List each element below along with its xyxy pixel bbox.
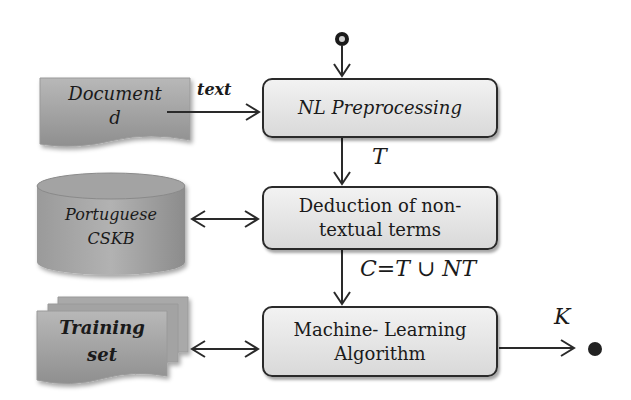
ml-label-line1: Machine- Learning [293,318,466,342]
nl-preprocessing-box: NL Preprocessing [262,78,498,138]
cskb-label-line1: Portuguese [37,204,185,226]
text-edge-label: text [197,80,232,99]
start-arrow [334,46,350,76]
c-arrow [334,250,350,304]
end-node-icon [588,342,602,356]
deduction-label-line2: textual terms [319,218,441,242]
t-edge-label: T [372,144,387,169]
training-label-line1: Training [37,316,167,340]
nl-preprocessing-label: NL Preprocessing [298,96,462,120]
start-node-icon [335,32,349,46]
document-label-line2: d [40,106,190,130]
ml-label-line2: Algorithm [334,342,425,366]
deduction-label-line1: Deduction of non- [299,194,462,218]
deduction-box: Deduction of non- textual terms [262,186,498,250]
training-set-shape [37,297,188,384]
document-label-line1: Document [40,82,190,106]
ml-algorithm-box: Machine- Learning Algorithm [262,306,498,377]
training-bidirectional-arrow [192,341,258,357]
c-edge-label: C=T ∪ NT [360,256,476,281]
k-arrow [499,340,574,356]
t-arrow [334,137,350,184]
cskb-bidirectional-arrow [192,211,258,227]
cskb-label-line2: CSKB [37,228,185,250]
k-edge-label: K [554,304,570,329]
training-label-line2: set [37,343,167,367]
